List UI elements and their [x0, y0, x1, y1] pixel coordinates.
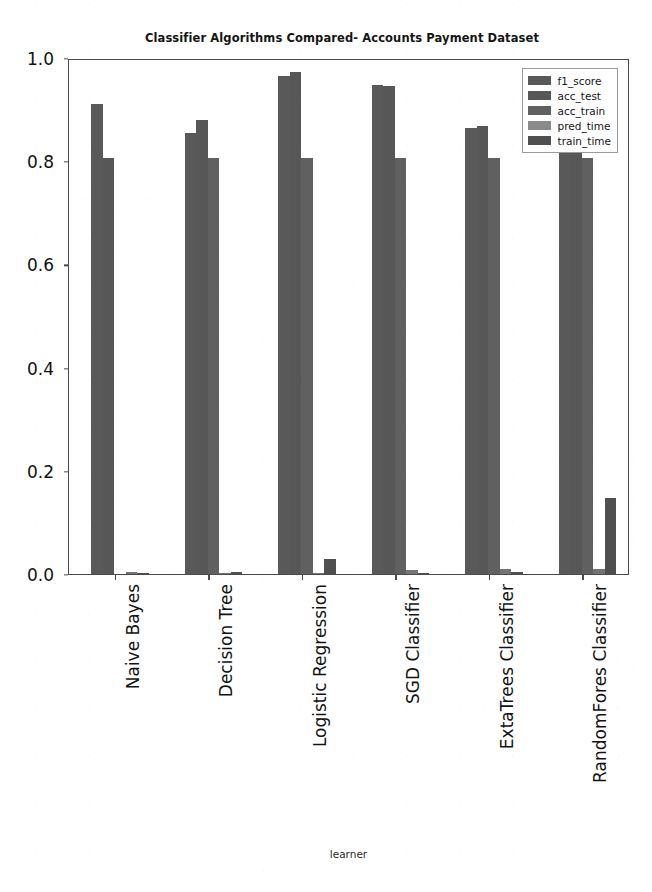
bar-group — [372, 60, 430, 574]
bar — [196, 120, 208, 574]
bar — [465, 128, 477, 574]
bar — [290, 72, 302, 574]
x-axis-tick-label: ExtaTrees Classifier — [497, 584, 517, 749]
bar — [559, 107, 571, 574]
legend-label: pred_time — [558, 120, 611, 132]
y-axis-tick-label: 0.8 — [27, 152, 54, 172]
x-axis-tick-label: Naive Bayes — [123, 584, 143, 689]
legend-row: train_time — [528, 133, 611, 148]
legend-swatch — [528, 91, 551, 100]
legend-label: f1_score — [558, 75, 602, 87]
bar-group — [91, 60, 149, 574]
y-axis-tick-label: 0.0 — [27, 565, 54, 585]
bar — [208, 158, 220, 574]
x-axis-title: learner — [68, 848, 629, 860]
legend-row: pred_time — [528, 118, 611, 133]
x-axis-tick-label: Decision Tree — [216, 584, 236, 697]
bar — [605, 498, 617, 574]
bar — [324, 559, 336, 574]
legend-label: train_time — [558, 135, 611, 147]
bar — [395, 158, 407, 574]
bar — [511, 572, 523, 574]
legend-row: acc_train — [528, 103, 611, 118]
y-axis-tick-labels: 0.00.20.40.60.81.0 — [0, 59, 62, 575]
bar — [301, 158, 313, 574]
bar — [418, 573, 430, 574]
legend-row: f1_score — [528, 73, 611, 88]
legend-swatch — [528, 121, 551, 130]
bar — [488, 158, 500, 574]
x-axis-tick-mark — [208, 575, 209, 580]
y-axis-tick-label: 1.0 — [27, 49, 54, 69]
bar — [219, 573, 231, 574]
bar — [406, 570, 418, 574]
legend-swatch — [528, 136, 551, 145]
y-axis-tick-label: 0.4 — [27, 359, 54, 379]
matplotlib-figure: Classifier Algorithms Compared- Accounts… — [0, 0, 652, 892]
x-axis-tick-label: SGD Classifier — [403, 584, 423, 704]
x-axis-tick-label: Logistic Regression — [310, 584, 330, 747]
bar-group — [185, 60, 243, 574]
bar — [103, 158, 115, 574]
x-axis-tick-labels: Naive BayesDecision TreeLogistic Regress… — [68, 584, 629, 814]
legend-label: acc_test — [558, 90, 601, 102]
legend-label: acc_train — [558, 105, 606, 117]
x-axis-tick-mark — [115, 575, 116, 580]
chart-title: Classifier Algorithms Compared- Accounts… — [62, 31, 622, 45]
bar-group — [278, 60, 336, 574]
y-axis-tick-label: 0.6 — [27, 255, 54, 275]
bar — [231, 572, 243, 574]
bar — [593, 569, 605, 574]
x-axis-tick-label: RandomFores Classifier — [590, 584, 610, 783]
bar — [278, 76, 290, 574]
y-axis-tick-label: 0.2 — [27, 462, 54, 482]
legend-swatch — [528, 76, 551, 85]
plot-frame: f1_scoreacc_testacc_trainpred_timetrain_… — [68, 59, 629, 575]
legend-row: acc_test — [528, 88, 611, 103]
bar — [570, 94, 582, 574]
bar — [313, 573, 325, 574]
bar — [91, 104, 103, 574]
bar — [126, 572, 138, 574]
x-axis-tick-mark — [582, 575, 583, 580]
chart-legend: f1_scoreacc_testacc_trainpred_timetrain_… — [522, 68, 618, 153]
x-axis-tick-mark — [302, 575, 303, 580]
bar — [137, 573, 149, 574]
bar — [383, 86, 395, 574]
bar — [477, 126, 489, 574]
bar — [372, 85, 384, 574]
x-axis-tick-mark — [395, 575, 396, 580]
bar — [500, 569, 512, 574]
legend-swatch — [528, 106, 551, 115]
x-axis-tick-mark — [489, 575, 490, 580]
x-axis-tick-marks — [68, 575, 629, 583]
bar — [582, 158, 594, 574]
bar-group — [465, 60, 523, 574]
bar — [185, 133, 197, 574]
